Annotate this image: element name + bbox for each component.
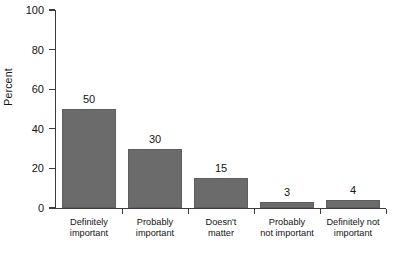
y-axis-tick-label: 20	[0, 162, 44, 174]
bar[interactable]	[62, 109, 116, 208]
y-axis-tick	[49, 128, 55, 129]
y-axis-tick-label: 40	[0, 123, 44, 135]
y-axis-tick-label: 100	[0, 4, 44, 16]
bar-slot: 50	[56, 10, 122, 208]
bar[interactable]	[260, 202, 314, 208]
y-axis-tick	[49, 9, 55, 10]
y-axis-tick	[49, 168, 55, 169]
x-axis-line	[55, 208, 386, 209]
x-axis-category-label: Definitely notimportant	[314, 217, 392, 240]
y-axis-tick	[49, 49, 55, 50]
plot-area: 50301534	[56, 10, 386, 208]
x-axis-tick	[320, 209, 321, 214]
bar-value-label: 15	[188, 162, 254, 174]
bar-value-label: 4	[320, 184, 386, 196]
x-axis-tick	[188, 209, 189, 214]
bar[interactable]	[128, 149, 182, 208]
category-label-line: Definitely not	[314, 217, 392, 228]
bar-value-label: 30	[122, 133, 188, 145]
bar-chart: Percent 020406080100 50301534 Definitely…	[0, 0, 395, 256]
bar-slot: 30	[122, 10, 188, 208]
bar[interactable]	[326, 200, 380, 208]
bar-slot: 3	[254, 10, 320, 208]
x-axis-tick	[122, 209, 123, 214]
x-axis-tick	[254, 209, 255, 214]
bar-value-label: 50	[56, 93, 122, 105]
x-axis-tick	[386, 209, 387, 214]
bar-slot: 15	[188, 10, 254, 208]
bar[interactable]	[194, 178, 248, 208]
y-axis-tick-label: 0	[0, 202, 44, 214]
y-axis-tick-label: 60	[0, 83, 44, 95]
y-axis-tick-label: 80	[0, 44, 44, 56]
bar-value-label: 3	[254, 186, 320, 198]
category-label-line: important	[314, 228, 392, 239]
bar-slot: 4	[320, 10, 386, 208]
y-axis-tick	[49, 89, 55, 90]
